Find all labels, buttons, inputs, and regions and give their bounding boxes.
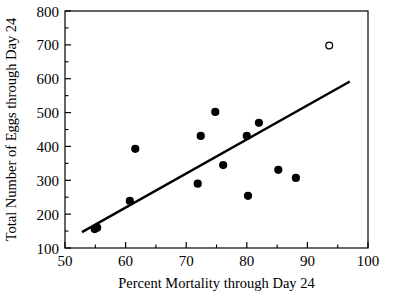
y-tick-label: 500 bbox=[37, 105, 60, 121]
chart-canvas: 5060708090100 100200300400500600700800 P… bbox=[0, 0, 395, 301]
data-point-filled bbox=[131, 145, 139, 153]
x-tick-label: 60 bbox=[118, 253, 133, 269]
data-point-filled bbox=[197, 132, 205, 140]
data-point-filled bbox=[274, 166, 282, 174]
data-point-filled bbox=[93, 224, 101, 232]
scatter-plot-figure: 5060708090100 100200300400500600700800 P… bbox=[0, 0, 395, 301]
y-tick-label: 600 bbox=[37, 71, 60, 87]
data-point-filled bbox=[194, 180, 202, 188]
x-tick-label: 70 bbox=[179, 253, 194, 269]
y-tick-label: 200 bbox=[37, 207, 60, 223]
y-tick-label: 400 bbox=[37, 139, 60, 155]
data-point-filled bbox=[219, 161, 227, 169]
data-point-filled bbox=[126, 197, 134, 205]
data-point-filled bbox=[211, 108, 219, 116]
y-axis-title: Total Number of Eggs through Day 24 bbox=[3, 17, 19, 241]
x-tick-label: 80 bbox=[239, 253, 254, 269]
y-tick-label: 700 bbox=[37, 37, 60, 53]
x-tick-label: 50 bbox=[58, 253, 73, 269]
y-tick-label: 800 bbox=[37, 4, 60, 20]
data-point-filled bbox=[255, 119, 263, 127]
data-point-filled bbox=[292, 174, 300, 182]
x-tick-label: 90 bbox=[300, 253, 315, 269]
y-tick-label: 100 bbox=[37, 241, 60, 257]
data-point-filled bbox=[243, 132, 251, 140]
x-tick-label: 100 bbox=[357, 253, 380, 269]
y-tick-label: 300 bbox=[37, 173, 60, 189]
data-point-filled bbox=[244, 192, 252, 200]
x-axis-title: Percent Mortality through Day 24 bbox=[118, 275, 315, 291]
